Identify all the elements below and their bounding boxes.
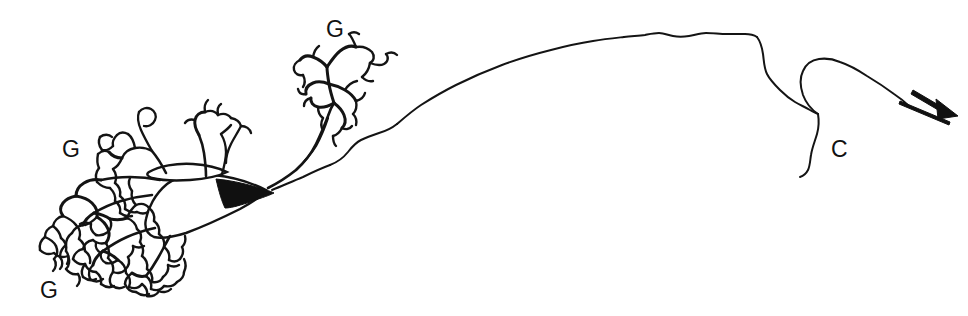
tuft-branch	[85, 251, 90, 263]
tuft-branch	[103, 251, 118, 260]
tuft-branch	[129, 178, 132, 191]
soma-outline	[145, 174, 266, 237]
tuft-branch	[73, 259, 85, 264]
tuft-branch	[177, 272, 184, 282]
tuft-branch	[61, 196, 76, 216]
tuft-branch	[303, 75, 305, 87]
tuft-branch	[139, 108, 156, 126]
tuft-branch	[142, 256, 147, 269]
label-g-upper-left-glomerulus: G	[62, 138, 80, 161]
tuft-branch	[53, 259, 56, 271]
neuron-figure: G G G C	[0, 0, 968, 316]
tuft-branch	[117, 133, 128, 135]
tuft-branch	[152, 277, 163, 282]
tuft-branch	[182, 236, 185, 247]
arrow-head	[936, 99, 958, 119]
tuft-branch	[306, 82, 329, 94]
label-g-dorsal-glomerulus: G	[326, 18, 344, 41]
soma-group	[145, 164, 274, 238]
tuft-branch	[66, 233, 72, 245]
tuft-branch	[180, 247, 183, 259]
tuft-branch	[356, 93, 365, 101]
axon-initial-segment	[272, 165, 330, 190]
tuft-branch	[195, 112, 205, 135]
tuft-branch	[100, 135, 112, 137]
tuft-branch	[362, 77, 373, 81]
tuft-branch	[82, 264, 85, 277]
tuft-branch	[115, 183, 120, 196]
tuft-branch	[163, 265, 168, 277]
tuft-branch	[99, 137, 102, 150]
tuft-branch	[111, 285, 124, 288]
tuft-branch	[349, 33, 359, 35]
tuft-branch	[168, 265, 179, 267]
tuft-branch	[91, 224, 96, 235]
tuft-branch	[127, 218, 137, 229]
tuft-branch	[113, 169, 116, 183]
tuft-branch	[60, 257, 62, 269]
tuft-branch	[97, 154, 99, 168]
tuft-branch	[221, 125, 231, 134]
tuft-branch	[128, 246, 133, 257]
tuft-branch	[184, 259, 186, 272]
tuft-branch	[106, 243, 109, 258]
tuft-branch	[53, 226, 61, 238]
tuft-branch	[140, 242, 143, 256]
tuft-branch	[45, 237, 56, 246]
tuft-branch	[231, 118, 241, 126]
tuft-branch	[169, 259, 180, 261]
tuft-branch	[138, 112, 152, 151]
neuron-line-drawing	[0, 0, 968, 316]
tuft-branch	[110, 272, 113, 285]
axon-descending-limb	[757, 37, 818, 114]
tuft-branch	[313, 46, 319, 57]
tuft-branch	[132, 273, 146, 276]
tuft-branch	[333, 136, 336, 146]
dorsal-primary-dendrite	[268, 103, 334, 188]
tuft-branch	[345, 81, 357, 90]
collateral-group	[800, 59, 909, 177]
tuft-branch	[133, 246, 144, 248]
collateral-upper-hook	[801, 59, 909, 114]
tuft-branch	[146, 276, 151, 289]
tuft-branch	[125, 257, 129, 270]
tuft-branch	[137, 212, 148, 214]
axon-crest	[624, 33, 757, 37]
tuft-branch	[122, 148, 152, 158]
tuft-branch	[164, 282, 177, 286]
tuft-branch	[113, 270, 125, 273]
tuft-branch	[113, 158, 122, 169]
tuft-branch	[356, 47, 374, 63]
tuft-branch	[136, 204, 149, 208]
label-c-collateral: C	[831, 138, 848, 161]
label-g-lower-left-glomerulus: G	[40, 279, 58, 302]
tuft-branch	[353, 101, 356, 114]
tuft-branch	[108, 219, 111, 232]
tuft-branch	[109, 152, 122, 158]
tuft-branch	[97, 217, 109, 243]
tuft-branch	[294, 60, 303, 75]
tuft-branch	[311, 98, 334, 107]
tuft-branch	[353, 114, 356, 125]
tuft-branch	[66, 269, 78, 274]
tuft-branch	[110, 188, 115, 201]
direction-arrow	[899, 90, 958, 125]
tuft-branch	[327, 46, 356, 67]
tuft-branch	[96, 232, 108, 235]
tuft-branch	[241, 126, 251, 133]
tuft-branch	[53, 216, 63, 226]
dorsal-tuft-branches	[294, 33, 397, 147]
tuft-branch	[40, 237, 45, 250]
axon-mid-shaft	[397, 37, 624, 124]
tuft-branch	[97, 182, 110, 188]
tuft-branch	[218, 114, 231, 118]
tuft-branch	[128, 134, 135, 148]
tuft-branch	[226, 126, 241, 163]
tuft-branch	[137, 229, 141, 242]
tuft-branch	[362, 63, 370, 77]
tuft-branch	[322, 118, 324, 130]
tuft-branch	[333, 128, 342, 136]
collateral-descending-terminal	[800, 114, 819, 177]
tuft-branch	[164, 247, 169, 260]
tuft-branch	[45, 226, 53, 237]
